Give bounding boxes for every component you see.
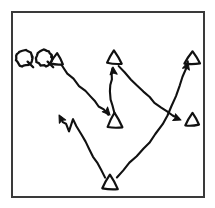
- loop-glyph-group: [16, 50, 53, 68]
- figure-border: [12, 12, 204, 197]
- path-triangle1-to-triangle4: [62, 65, 109, 115]
- path-triangle6-to-upper-left: [61, 118, 105, 178]
- trajectory-path-group: [61, 61, 188, 177]
- sketch-canvas: Hand-drawn trajectory sketch: [0, 0, 215, 208]
- arrowhead-into-triangle2: [109, 67, 117, 75]
- trajectory-sketch-svg: Hand-drawn trajectory sketch: [0, 0, 215, 208]
- triangle-2: [107, 50, 122, 64]
- triangle-5: [185, 113, 199, 126]
